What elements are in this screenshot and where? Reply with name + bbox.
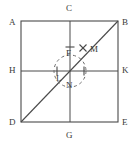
cross-marker-m [80, 45, 87, 52]
vertex-label-b: B [122, 18, 128, 27]
geometry-figure: A B C D E G H K F M L N [0, 0, 138, 147]
point-label-n: N [66, 81, 73, 90]
vertex-label-c: C [66, 4, 72, 13]
point-label-f: F [66, 49, 71, 58]
vertex-label-e: E [122, 118, 128, 127]
vertex-label-d: D [9, 118, 16, 127]
vertex-label-g: G [66, 131, 73, 140]
vertex-label-k: K [122, 66, 129, 75]
vertex-label-h: H [9, 66, 16, 75]
vertex-label-a: A [9, 18, 16, 27]
geometry-canvas [0, 0, 138, 147]
point-label-m: M [90, 45, 98, 54]
point-label-l: L [56, 74, 62, 83]
